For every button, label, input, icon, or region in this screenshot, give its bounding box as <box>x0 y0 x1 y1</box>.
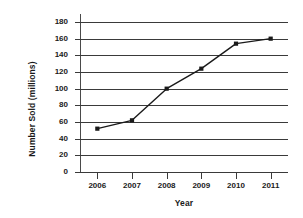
y-axis-label: 60 <box>42 118 68 126</box>
data-point-marker <box>130 118 134 122</box>
x-axis-tick <box>132 172 133 179</box>
x-axis-tick <box>236 172 237 179</box>
x-axis-tick <box>271 172 272 179</box>
y-axis-label: 0 <box>42 168 68 176</box>
y-axis-label: 20 <box>42 151 68 159</box>
series-line-number-sold <box>80 22 288 172</box>
y-axis-label: 100 <box>42 85 68 93</box>
gridline <box>80 172 288 173</box>
data-point-marker <box>234 42 238 46</box>
x-axis-label: 2010 <box>219 181 253 190</box>
x-axis-label: 2007 <box>115 181 149 190</box>
y-axis-label: 80 <box>42 101 68 109</box>
x-axis-title: Year <box>80 198 288 208</box>
data-point-marker <box>95 127 99 131</box>
data-point-marker <box>269 37 273 41</box>
y-axis-label: 140 <box>42 51 68 59</box>
x-axis-label: 2008 <box>150 181 184 190</box>
y-axis-label: 160 <box>42 35 68 43</box>
line-chart: Number Sold (millions) 02040608010012014… <box>0 0 303 218</box>
x-axis-tick <box>97 172 98 179</box>
data-point-marker <box>199 67 203 71</box>
x-axis-label: 2011 <box>254 181 288 190</box>
y-axis-label: 180 <box>42 18 68 26</box>
y-axis-label: 120 <box>42 68 68 76</box>
y-axis-title: Number Sold (millions) <box>24 0 40 218</box>
x-axis-label: 2009 <box>184 181 218 190</box>
x-axis-label: 2006 <box>80 181 114 190</box>
plot-area <box>80 22 288 172</box>
x-axis-tick <box>167 172 168 179</box>
y-axis-label: 40 <box>42 135 68 143</box>
data-point-marker <box>165 87 169 91</box>
x-axis-tick <box>201 172 202 179</box>
